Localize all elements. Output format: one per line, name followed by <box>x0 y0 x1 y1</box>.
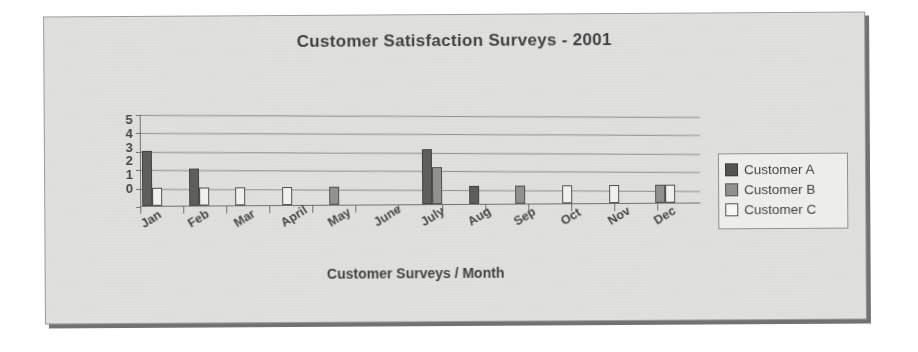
y-tick-3: 3 <box>126 140 133 154</box>
x-label-dec: Dec <box>654 210 701 256</box>
chart-title: Customer Satisfaction Surveys - 2001 <box>44 28 864 53</box>
bar-group-may <box>326 113 373 204</box>
bar-feb-a <box>189 169 199 206</box>
legend-swatch-icon-b <box>725 183 738 196</box>
x-label-may: May <box>327 211 374 257</box>
y-tick-2: 2 <box>126 154 133 168</box>
bar-group-july <box>420 113 467 204</box>
legend-item-customer-a: Customer A <box>725 162 841 178</box>
legend-item-customer-c: Customer C <box>725 202 841 218</box>
bar-group-aug <box>466 113 513 204</box>
x-label-mar: Mar <box>234 212 281 258</box>
scanned-page: Customer Satisfaction Surveys - 2001 5 4… <box>0 0 918 352</box>
x-label-april: April <box>280 212 327 258</box>
y-axis-tick-labels: 5 4 3 2 1 0 <box>111 113 134 209</box>
bar-july-b <box>432 167 442 204</box>
x-label-oct: Oct <box>560 210 607 256</box>
y-tick-0: 0 <box>126 182 133 196</box>
x-label-july: July <box>420 211 467 257</box>
bar-group-nov <box>606 112 653 203</box>
bar-sep-b <box>515 185 525 203</box>
y-tick-mark-2 <box>136 170 141 171</box>
legend-swatch-icon-a <box>725 163 738 176</box>
bar-dec-c <box>665 184 675 202</box>
legend-label-c: Customer C <box>744 202 816 217</box>
bar-dec-b <box>655 184 665 202</box>
bar-oct-c <box>562 185 572 203</box>
y-tick-5: 5 <box>125 113 132 127</box>
y-tick-mark-3 <box>136 152 141 153</box>
bar-groups <box>140 112 701 206</box>
y-tick-4: 4 <box>126 127 133 141</box>
bar-group-feb <box>186 114 233 205</box>
bar-group-dec <box>653 112 700 203</box>
bar-group-june <box>373 113 420 204</box>
bar-group-sep <box>513 112 560 203</box>
bar-group-jan <box>140 115 187 206</box>
legend-label-a: Customer A <box>744 162 815 177</box>
legend-swatch-icon-c <box>725 203 738 216</box>
x-axis-title: Customer Surveys / Month <box>106 263 726 283</box>
y-tick-mark-4 <box>136 133 141 134</box>
bar-group-mar <box>233 114 280 205</box>
x-label-jan: Jan <box>140 213 187 259</box>
x-label-june: June <box>374 211 421 257</box>
bar-group-oct <box>560 112 607 203</box>
y-tick-mark-0 <box>136 207 141 208</box>
plot-area <box>140 112 701 207</box>
bar-july-a <box>422 149 432 204</box>
chart-legend: Customer A Customer B Customer C <box>718 153 848 230</box>
bar-mar-c <box>235 187 245 205</box>
bar-nov-c <box>609 185 619 203</box>
x-label-aug: Aug <box>467 211 514 257</box>
x-label-feb: Feb <box>187 212 234 258</box>
bar-may-b <box>329 186 339 204</box>
legend-label-b: Customer B <box>744 182 815 197</box>
bar-aug-a <box>469 185 479 203</box>
x-axis-category-labels: JanFebMarAprilMayJuneJulyAugSepOctNovDec <box>140 210 700 259</box>
bar-group-april <box>280 114 327 205</box>
bar-april-c <box>282 187 292 205</box>
y-tick-mark-1 <box>136 189 141 190</box>
bar-jan-c <box>152 187 162 205</box>
y-tick-1: 1 <box>126 168 133 182</box>
x-label-sep: Sep <box>514 210 561 256</box>
legend-item-customer-b: Customer B <box>725 182 841 198</box>
x-label-nov: Nov <box>607 210 654 256</box>
bar-feb-c <box>199 187 209 205</box>
y-tick-mark-5 <box>136 115 141 116</box>
bar-jan-a <box>142 151 152 206</box>
chart-figure: Customer Satisfaction Surveys - 2001 5 4… <box>43 11 867 324</box>
